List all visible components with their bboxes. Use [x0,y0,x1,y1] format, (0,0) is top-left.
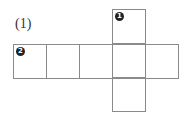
figure-label: (1) [15,16,31,32]
face-row-3 [79,44,113,79]
marker-1-badge: 1 [115,12,124,21]
face-row-1: 2 [13,44,47,79]
face-row-2 [46,44,80,79]
face-top: 1 [112,9,146,44]
face-row-5 [145,44,179,79]
face-bottom [112,77,146,112]
marker-2-badge: 2 [16,47,25,56]
face-row-4 [112,44,146,79]
